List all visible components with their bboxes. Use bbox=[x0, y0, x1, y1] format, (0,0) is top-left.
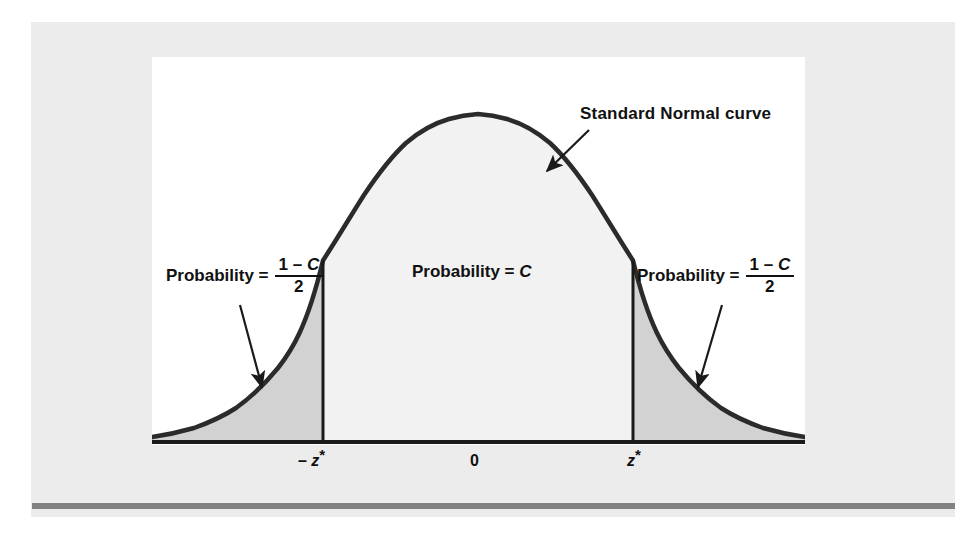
right-tail-fraction: 1 – C 2 bbox=[746, 256, 795, 296]
tick-neg-star: * bbox=[319, 446, 325, 463]
right-tail-label-arrow bbox=[698, 305, 722, 387]
tick-label-positive-z-star: z* bbox=[627, 452, 641, 470]
left-tail-probability-prefix: Probability = bbox=[166, 266, 269, 286]
right-tail-numerator: 1 – C bbox=[746, 256, 795, 277]
left-tail-num-minus: – bbox=[293, 255, 302, 274]
center-probability-prefix: Probability = bbox=[412, 262, 519, 281]
left-tail-num-one: 1 bbox=[279, 255, 288, 274]
left-tail-num-symbol: C bbox=[307, 255, 319, 274]
tick-label-zero: 0 bbox=[470, 452, 479, 470]
right-tail-num-symbol: C bbox=[778, 255, 790, 274]
left-tail-label-arrow bbox=[240, 305, 262, 387]
right-tail-num-one: 1 bbox=[750, 255, 759, 274]
standard-normal-curve-label: Standard Normal curve bbox=[580, 104, 771, 124]
left-tail-fraction: 1 – C 2 bbox=[275, 256, 324, 296]
bottom-divider-rule bbox=[32, 503, 955, 509]
right-tail-probability-prefix: Probability = bbox=[637, 266, 740, 286]
left-tail-probability-label: Probability = 1 – C 2 bbox=[166, 256, 323, 296]
tick-label-negative-z-star: – z* bbox=[298, 452, 325, 470]
center-probability-label: Probability = C bbox=[412, 262, 532, 282]
tick-pos-star: * bbox=[635, 446, 641, 463]
center-probability-symbol: C bbox=[519, 262, 531, 281]
right-tail-probability-label: Probability = 1 – C 2 bbox=[637, 256, 794, 296]
left-tail-numerator: 1 – C bbox=[275, 256, 324, 277]
right-tail-denominator: 2 bbox=[765, 277, 774, 296]
right-tail-num-minus: – bbox=[764, 255, 773, 274]
left-tail-denominator: 2 bbox=[294, 277, 303, 296]
tick-pos-z: z bbox=[627, 452, 635, 469]
tick-neg-minus: – bbox=[298, 452, 311, 469]
